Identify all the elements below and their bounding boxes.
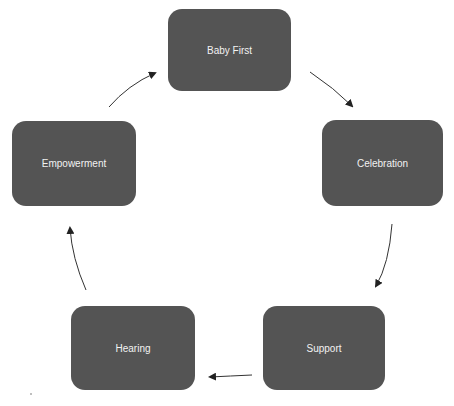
arrow-hearing-to-empowerment xyxy=(70,228,86,290)
arrow-baby-first-to-celebration xyxy=(310,72,352,106)
arrow-support-to-hearing xyxy=(210,375,252,377)
arrow-empowerment-to-baby-first xyxy=(109,73,155,107)
cycle-arrows xyxy=(0,0,454,406)
scan-speck xyxy=(30,393,32,395)
arrow-celebration-to-support xyxy=(376,224,392,286)
